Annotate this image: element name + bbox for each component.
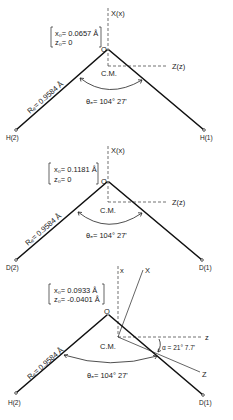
axis-z-label: Z(z) xyxy=(172,198,186,207)
angle-arc xyxy=(80,78,142,90)
bond-left xyxy=(16,50,107,130)
axis-x-label: X(x) xyxy=(111,9,125,18)
coord-x0: x₀= 0.0933 Å xyxy=(54,286,97,295)
coord-z0: z₀= 0 xyxy=(55,38,73,47)
panel-h2o: x₀= 0.0657 Å z₀= 0 O X(x) Z(z) C.M. θₑ= … xyxy=(6,8,213,142)
atom-right-label: D(1) xyxy=(199,399,212,407)
bond-right xyxy=(109,50,204,130)
axis-z-small-label: z xyxy=(205,333,209,342)
atom-right-label: D(1) xyxy=(199,264,212,272)
panel-d2o: x₀= 0.1181 Å z₀= 0 O X(x) Z(z) C.M. θₑ= … xyxy=(6,146,212,272)
angle-label: θₑ= 104° 27' xyxy=(86,231,127,240)
angle-arc xyxy=(64,355,157,363)
angle-label: θₑ= 104° 27' xyxy=(86,97,127,106)
atom-left-label: D(2) xyxy=(6,264,19,272)
atom-left-label: H(2) xyxy=(6,134,19,142)
bond-right xyxy=(109,315,203,395)
coord-x0: x₀= 0.1181 Å xyxy=(54,165,97,174)
origin-label: O xyxy=(104,307,110,316)
bond-right xyxy=(109,182,202,260)
bracket-left xyxy=(49,284,51,304)
atom-right-dot xyxy=(202,394,205,397)
molecule-geometry-figure: x₀= 0.0657 Å z₀= 0 O X(x) Z(z) C.M. θₑ= … xyxy=(0,0,233,420)
atom-left-label: H(2) xyxy=(8,399,21,407)
atom-right-dot xyxy=(203,129,206,132)
axis-z-label: Z(z) xyxy=(172,62,186,71)
axis-x-small-label: x xyxy=(120,266,124,275)
origin-label: O xyxy=(101,177,107,186)
bond-length-label: Rₑ= 0.9584 Å xyxy=(23,211,63,247)
bracket-left xyxy=(49,163,51,184)
bond-length-label: Rₑ= 0.9584 Å xyxy=(25,79,65,115)
atom-left-dot xyxy=(15,259,18,262)
bond-length-label: Rₑ= 0.9584 Å xyxy=(25,345,65,381)
cm-label: C.M. xyxy=(100,206,116,215)
bracket-left xyxy=(51,27,53,47)
atom-right-label: H(1) xyxy=(200,134,213,142)
atom-left-dot xyxy=(15,392,18,395)
panel-hdo: x₀= 0.0933 Å z₀= -0.0401 Å O x X z Z C.M… xyxy=(8,266,212,407)
cm-label: C.M. xyxy=(101,69,117,78)
axis-X-principal-label: X xyxy=(145,266,150,275)
bracket-right xyxy=(99,27,101,47)
axis-x-label: X(x) xyxy=(111,146,125,155)
coord-z0: z₀= -0.0401 Å xyxy=(54,295,100,304)
atom-right-dot xyxy=(201,259,204,262)
rotation-angle-label: α = 21° 7.7' xyxy=(162,344,195,351)
origin-label: O xyxy=(101,45,107,54)
cm-label: C.M. xyxy=(100,342,116,351)
axis-Z-principal-label: Z xyxy=(202,370,207,379)
coord-x0: x₀= 0.0657 Å xyxy=(55,29,98,38)
bracket-right xyxy=(102,284,104,304)
atom-left-dot xyxy=(15,129,18,132)
x-axis-principal xyxy=(118,270,143,337)
angle-label: θₑ= 104° 27' xyxy=(87,371,128,380)
z-axis-principal xyxy=(118,337,200,372)
coord-z0: z₀= 0 xyxy=(54,175,72,184)
